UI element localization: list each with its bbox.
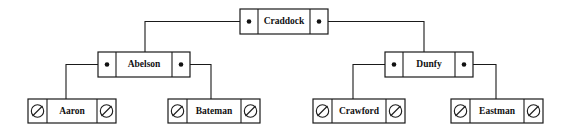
node-label-abelson: Abelson xyxy=(128,59,161,69)
right-pointer-dot-dunfy xyxy=(462,62,467,67)
nodes-layer: CraddockAbelsonDunfyAaronBatemanCrawford… xyxy=(28,9,543,123)
right-pointer-dot-craddock xyxy=(317,19,322,24)
left-pointer-dot-craddock xyxy=(247,19,252,24)
node-label-dunfy: Dunfy xyxy=(416,59,442,69)
node-label-crawford: Crawford xyxy=(339,106,380,116)
node-crawford[interactable]: Crawford xyxy=(313,99,405,123)
node-label-eastman: Eastman xyxy=(479,106,516,116)
tree-canvas: CraddockAbelsonDunfyAaronBatemanCrawford… xyxy=(0,0,566,137)
node-label-craddock: Craddock xyxy=(264,16,305,26)
node-bateman[interactable]: Bateman xyxy=(168,99,260,123)
node-label-bateman: Bateman xyxy=(196,106,233,116)
right-pointer-dot-abelson xyxy=(179,62,184,67)
node-craddock[interactable]: Craddock xyxy=(240,9,328,34)
node-abelson[interactable]: Abelson xyxy=(98,52,190,77)
left-pointer-dot-abelson xyxy=(105,62,110,67)
node-dunfy[interactable]: Dunfy xyxy=(385,52,473,77)
binary-search-tree-diagram: CraddockAbelsonDunfyAaronBatemanCrawford… xyxy=(0,0,566,137)
edge-craddock-right-dunfy xyxy=(319,22,424,53)
node-label-aaron: Aaron xyxy=(59,106,85,116)
left-pointer-dot-dunfy xyxy=(392,62,397,67)
node-eastman[interactable]: Eastman xyxy=(451,99,543,123)
node-aaron[interactable]: Aaron xyxy=(28,99,116,123)
edge-craddock-left-abelson xyxy=(145,22,249,53)
